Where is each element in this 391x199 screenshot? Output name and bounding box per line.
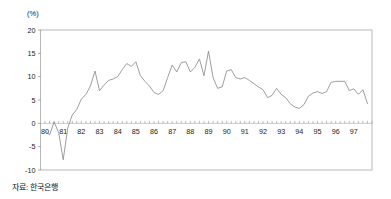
chart-figure: (%) -10-50510152080818283848586878889909…	[0, 0, 391, 199]
x-tick-label: 89	[205, 127, 213, 136]
data-series-line	[45, 51, 367, 160]
x-tick-label: 85	[132, 127, 140, 136]
y-tick-label: -10	[25, 166, 35, 175]
x-tick-label: 84	[114, 127, 122, 136]
x-tick-label: 91	[241, 127, 249, 136]
y-tick-label: 0	[32, 119, 36, 128]
x-tick-label: 96	[332, 127, 340, 136]
x-tick-label: 94	[295, 127, 303, 136]
x-tick-label: 90	[223, 127, 231, 136]
y-tick-label: -5	[29, 142, 35, 151]
x-tick-label: 81	[59, 127, 67, 136]
y-tick-label: 10	[28, 72, 36, 81]
source-note: 자료: 한국은행	[12, 181, 58, 192]
x-tick-label: 88	[186, 127, 194, 136]
x-tick-label: 80	[41, 127, 49, 136]
y-tick-label: 15	[28, 49, 36, 58]
x-tick-label: 87	[168, 127, 176, 136]
x-tick-label: 86	[150, 127, 158, 136]
x-tick-label: 83	[96, 127, 104, 136]
line-chart-plot: -10-505101520808182838485868788899091929…	[0, 0, 391, 199]
plot-frame	[41, 30, 373, 170]
x-tick-label: 82	[77, 127, 85, 136]
y-tick-label: 20	[28, 26, 36, 35]
x-tick-label: 92	[259, 127, 267, 136]
x-tick-label: 97	[350, 127, 358, 136]
y-tick-label: 5	[32, 96, 36, 105]
x-tick-label: 95	[314, 127, 322, 136]
x-tick-label: 93	[277, 127, 285, 136]
